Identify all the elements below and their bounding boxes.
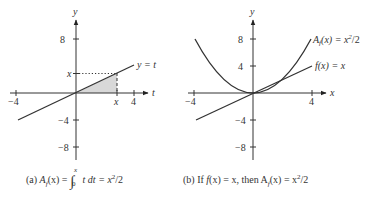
tick-label-x-t: x — [113, 96, 119, 107]
caption-text: (b) If — [183, 174, 206, 185]
caption-text: /2 — [115, 174, 123, 185]
line-label: f(x) = x — [315, 60, 346, 72]
caption-b: (b) If f(x) = x, then Af(x) = x2/2 — [183, 173, 308, 188]
caption-text: (a) — [26, 174, 40, 185]
tick-label-neg4-y: −4 — [235, 115, 246, 126]
tick-label-neg4-y: −4 — [58, 115, 69, 126]
caption-a: (a) Af(x) = ∫x0 t dt = x2/2 — [26, 173, 123, 190]
integral-limits: x0 — [74, 173, 80, 183]
tick-label-x-y: x — [66, 68, 72, 79]
tick-label-neg8: −8 — [58, 142, 69, 153]
tick-label-4-x: 4 — [309, 96, 314, 107]
panel-b: y x 8 4 −4 −8 −4 4 Af(x) = x2/2 f(x) = x — [185, 6, 360, 160]
tick-label-8: 8 — [238, 34, 243, 45]
x-axis-label: t — [152, 87, 155, 98]
tick-label-neg4-x: −4 — [185, 96, 196, 107]
tick-label-4: 4 — [238, 61, 243, 72]
caption-text: /2 — [301, 174, 309, 185]
caption-text: (x) = x, then A — [209, 174, 268, 185]
tick-label-neg8: −8 — [235, 142, 246, 153]
caption-text: (x) = — [48, 174, 70, 185]
y-axis-label: y — [249, 6, 255, 17]
tick-label-8: 8 — [60, 34, 65, 45]
curve-label: Af(x) = x2/2 — [312, 33, 360, 47]
tick-label-4-x: 4 — [131, 96, 136, 107]
caption-text: t dt = x — [80, 174, 112, 185]
panel-a: y t 8 −4 −8 −4 4 x x y = t — [8, 6, 156, 160]
tick-label-neg4-x: −4 — [8, 96, 19, 107]
line-label: y = t — [136, 59, 156, 70]
x-axis-label: x — [329, 87, 335, 98]
y-axis-label: y — [72, 6, 78, 17]
caption-text: (x) = x — [270, 174, 297, 185]
